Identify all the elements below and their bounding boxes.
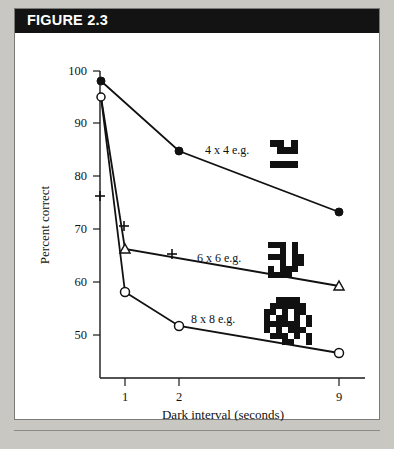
y-axis-title: Percent correct [37, 185, 52, 264]
data-point-4x4 [97, 77, 105, 85]
figure-header-bar: FIGURE 2.3 [15, 9, 379, 33]
x-axis-title: Dark interval (seconds) [162, 407, 284, 421]
stimulus-pattern-4x4 [270, 140, 298, 168]
chart-svg: 100 90 80 70 60 50 Percent correct 1 2 9 [15, 33, 381, 421]
data-point-4x4 [335, 208, 343, 216]
y-axis-tick-labels: 100 90 80 70 60 50 [68, 64, 87, 342]
data-point-8x8 [175, 322, 184, 331]
x-tick-label: 2 [176, 390, 182, 404]
series-label-8x8: 8 x 8 e.g. [191, 312, 235, 326]
plus-annotations [95, 191, 177, 259]
x-tick-label: 1 [122, 390, 128, 404]
x-axis-tick-labels: 1 2 9 [122, 390, 342, 404]
page-bottom-rule [14, 430, 380, 431]
plus-marker [95, 191, 105, 201]
stimulus-pattern-8x8 [264, 297, 312, 345]
figure-card: FIGURE 2.3 100 90 80 70 60 5 [14, 8, 380, 420]
x-tick-label: 9 [336, 390, 342, 404]
series-label-4x4: 4 x 4 e.g. [205, 143, 249, 157]
y-tick-label: 50 [75, 328, 88, 342]
data-point-8x8 [97, 93, 105, 101]
x-axis-ticks [125, 378, 339, 386]
data-point-6x6 [120, 244, 130, 253]
figure-number-label: FIGURE 2.3 [27, 12, 108, 28]
series-label-6x6: 6 x 6 e.g. [197, 251, 241, 265]
y-tick-label: 70 [75, 222, 88, 236]
y-tick-label: 80 [75, 169, 88, 183]
data-point-8x8 [335, 349, 344, 358]
y-tick-label: 100 [68, 64, 87, 78]
y-tick-label: 90 [75, 116, 88, 130]
data-point-8x8 [121, 288, 130, 297]
y-axis-ticks [93, 71, 100, 335]
chart-plot-area: 100 90 80 70 60 50 Percent correct 1 2 9 [15, 33, 379, 421]
stimulus-pattern-6x6 [268, 242, 304, 278]
data-point-4x4 [175, 147, 183, 155]
y-tick-label: 60 [75, 275, 88, 289]
